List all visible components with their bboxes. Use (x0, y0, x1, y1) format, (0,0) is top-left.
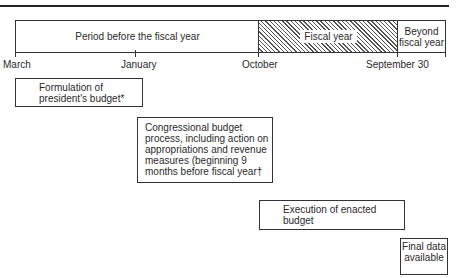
formulation-box: Formulation of president's budget* (15, 78, 143, 107)
tick-january (135, 50, 136, 57)
segment-fiscal-year: Fiscal year (258, 20, 398, 53)
tick-september-30 (397, 50, 398, 57)
segment-label: Beyond fiscal year (398, 26, 445, 48)
tick-label-october: October (242, 59, 278, 70)
segment-label: Period before the fiscal year (75, 31, 200, 42)
tick-october (258, 50, 259, 57)
segment-period-before-fiscal-year: Period before the fiscal year (15, 20, 259, 53)
tick-end (445, 50, 446, 57)
segment-label: Fiscal year (300, 30, 356, 43)
tick-label-january: January (121, 59, 157, 70)
congressional-process-box: Congressional budget process, including … (137, 117, 273, 183)
tick-label-september-30: September 30 (366, 59, 429, 70)
final-data-box: Final data available (400, 238, 448, 275)
top-rule (0, 5, 449, 7)
execution-box: Execution of enacted budget (259, 200, 405, 230)
segment-beyond-fiscal-year: Beyond fiscal year (397, 20, 446, 53)
tick-march (15, 50, 16, 57)
tick-label-march: March (3, 59, 31, 70)
